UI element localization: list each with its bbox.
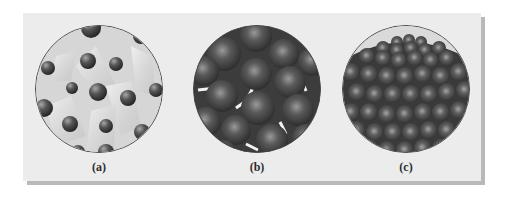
gas-state-illustration <box>35 25 163 153</box>
panel-label-c: (c) <box>386 160 426 175</box>
panel-label-a: (a) <box>79 160 119 175</box>
figure-panel: (a) <box>23 13 481 181</box>
solid-lattice-graphic <box>343 26 470 153</box>
panel-label-b: (b) <box>237 160 277 175</box>
liquid-molecules-graphic <box>194 26 321 153</box>
liquid-state-illustration <box>193 25 321 153</box>
solid-state-illustration <box>342 25 470 153</box>
gas-molecules-graphic <box>36 26 163 153</box>
